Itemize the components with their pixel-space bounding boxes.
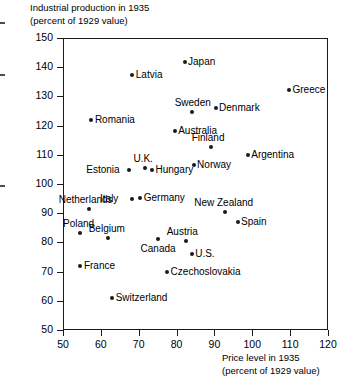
y-tick-label: 110 [27,148,53,160]
data-point-label: Romania [95,114,135,125]
x-tick-label: 110 [275,338,305,350]
x-tick-mark [177,330,178,336]
y-tick-label: 80 [27,235,53,247]
y-tick-label: 90 [27,206,53,218]
x-tick-label: 100 [237,338,267,350]
x-tick-mark [63,330,64,336]
x-tick-mark [252,330,253,336]
y-tick-mark [57,301,63,302]
crop-mark-upper [0,74,5,76]
y-tick-label: 130 [27,89,53,101]
x-tick-label: 120 [313,338,343,350]
x-tick-mark [139,330,140,336]
x-axis-title: Price level in 1935 (percent of 1929 val… [222,352,320,377]
data-point-label: Denmark [219,102,260,113]
data-point-marker [246,153,250,157]
x-tick-mark [101,330,102,336]
y-tick-label: 50 [27,323,53,335]
x-tick-label: 50 [48,338,78,350]
data-point-label: Greece [293,84,326,95]
y-tick-mark [57,155,63,156]
x-tick-mark [214,330,215,336]
data-point-marker [190,252,194,256]
data-point-label: Germany [144,192,185,203]
y-tick-label: 60 [27,294,53,306]
data-point-label: U.K. [133,153,152,164]
data-point-label: Czechoslovakia [171,266,241,277]
data-point-label: Norway [197,159,231,170]
y-axis-title-line1: Industrial production in 1935 [30,2,149,15]
y-tick-mark [57,184,63,185]
data-point-label: Finland [192,132,225,143]
crop-mark-middle [0,185,5,187]
data-point-label: Argentina [251,149,294,160]
y-tick-label: 70 [27,265,53,277]
y-tick-label: 120 [27,119,53,131]
plot-area [63,38,328,330]
x-tick-mark [290,330,291,336]
scatter-plot-figure: Industrial production in 1935 (percent o… [0,0,354,386]
y-tick-mark [57,242,63,243]
data-point-marker [150,168,154,172]
data-point-label: Estonia [86,164,119,175]
y-tick-label: 100 [27,177,53,189]
data-point-label: U.S. [195,248,214,259]
y-axis-title: Industrial production in 1935 (percent o… [30,2,149,27]
data-point-label: Hungary [155,164,193,175]
y-tick-mark [57,272,63,273]
data-point-label: Belgium [89,223,125,234]
data-point-marker [223,210,227,214]
y-tick-mark [57,67,63,68]
y-tick-mark [57,38,63,39]
data-point-label: Spain [241,216,267,227]
data-point-marker [236,220,240,224]
data-point-label: France [84,260,115,271]
y-tick-label: 140 [27,60,53,72]
y-axis-title-line2: (percent of 1929 value) [30,15,149,28]
data-point-label: Japan [188,56,215,67]
data-point-label: Netherlands [59,194,113,205]
y-tick-mark [57,96,63,97]
x-tick-mark [328,330,329,336]
data-point-label: Canada [141,243,176,254]
data-point-label: Sweden [175,97,211,108]
data-point-marker [287,88,291,92]
y-tick-mark [57,126,63,127]
data-point-label: Switzerland [116,292,168,303]
data-point-marker [214,106,218,110]
data-point-label: New Zealand [194,197,253,208]
x-tick-label: 90 [199,338,229,350]
x-tick-label: 80 [162,338,192,350]
crop-mark-top [0,22,5,24]
data-point-label: Austria [167,226,198,237]
data-point-marker [183,60,187,64]
x-tick-label: 60 [86,338,116,350]
x-tick-label: 70 [124,338,154,350]
data-point-label: Latvia [136,69,163,80]
x-axis-title-line1: Price level in 1935 [222,352,320,365]
y-tick-mark [57,213,63,214]
x-axis-title-line2: (percent of 1929 value) [222,365,320,378]
y-tick-label: 150 [27,31,53,43]
